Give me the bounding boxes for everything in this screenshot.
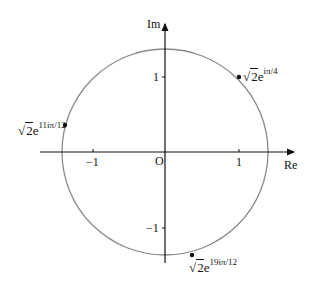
diagram-canvas (0, 0, 310, 295)
point-pi-4 (237, 75, 241, 79)
origin-label: O (155, 155, 164, 167)
y-tick-label-neg1: −1 (146, 222, 159, 234)
argand-diagram: Im Re O −1 1 1 −1 √2eiπ/4 √2e11iπ/12 √2e… (0, 0, 310, 295)
x-tick-label-neg1: −1 (86, 156, 99, 168)
point-label-pi-4: √2eiπ/4 (243, 67, 277, 83)
re-axis-label: Re (284, 159, 297, 171)
im-axis-label: Im (147, 18, 160, 30)
point-label-19pi-12: √2e19iπ/12 (189, 258, 237, 274)
x-tick-label-1: 1 (236, 156, 242, 168)
point-label-11pi-12: √2e11iπ/12 (18, 121, 66, 137)
y-tick-label-1: 1 (153, 71, 159, 83)
point-19pi-12 (190, 253, 194, 257)
